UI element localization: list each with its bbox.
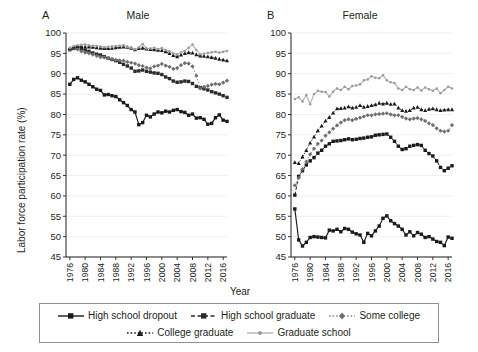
y-tick-label: 50: [50, 231, 61, 242]
data-point: [210, 83, 214, 87]
chart-canvas: 4550556065707580859095100197619801984198…: [0, 0, 478, 352]
data-point: [309, 103, 312, 106]
x-tick-label: 1980: [305, 263, 315, 282]
data-point: [347, 88, 350, 91]
data-point: [107, 46, 110, 49]
legend-swatch-college-graduate: [127, 328, 153, 338]
data-point: [446, 129, 450, 133]
data-point: [435, 107, 439, 111]
data-point: [397, 145, 400, 148]
data-point: [359, 83, 362, 86]
data-point: [369, 113, 373, 117]
data-point: [129, 66, 132, 69]
data-point: [221, 94, 224, 97]
series-line: [70, 78, 227, 125]
x-tick-label: 1976: [65, 263, 75, 282]
data-point: [351, 138, 354, 141]
data-point: [191, 82, 194, 85]
data-point: [416, 105, 420, 109]
legend-label-high-school-dropout: High school dropout: [88, 311, 177, 321]
data-point: [335, 228, 338, 231]
data-point: [354, 105, 358, 109]
y-tick-label: 60: [50, 190, 61, 201]
data-point: [374, 134, 377, 137]
data-point: [148, 66, 152, 70]
data-point: [370, 135, 373, 138]
data-point: [160, 73, 163, 76]
data-point: [396, 113, 400, 117]
data-point: [350, 118, 354, 122]
data-point: [126, 64, 129, 67]
data-point: [308, 159, 311, 162]
data-point: [206, 54, 210, 58]
data-point: [203, 53, 206, 56]
data-point: [370, 75, 373, 78]
data-point: [405, 86, 408, 89]
data-point: [439, 92, 442, 95]
data-point: [396, 106, 400, 110]
data-point: [210, 90, 213, 93]
data-point: [400, 148, 403, 151]
data-point: [400, 228, 403, 231]
x-tick-label: 1992: [351, 263, 361, 282]
legend-item-graduate-school[interactable]: Graduate school: [247, 328, 350, 338]
data-point: [408, 230, 411, 233]
data-point: [88, 44, 91, 47]
data-point: [218, 51, 221, 54]
legend-label-some-college: Some college: [359, 311, 420, 321]
data-point: [87, 83, 90, 86]
data-point: [95, 88, 98, 91]
data-point: [385, 132, 388, 135]
data-point: [84, 43, 87, 46]
data-point: [404, 116, 408, 120]
data-point: [316, 235, 319, 238]
data-point: [171, 67, 175, 71]
y-tick-label: 45: [275, 251, 286, 262]
data-point: [347, 137, 350, 140]
legend-item-college-graduate[interactable]: College graduate: [127, 328, 233, 338]
data-point: [130, 46, 133, 49]
data-point: [347, 105, 351, 109]
data-point: [324, 145, 327, 148]
data-point: [354, 232, 357, 235]
data-point: [412, 116, 416, 120]
data-point: [423, 108, 427, 112]
data-point: [206, 84, 210, 88]
legend-item-high-school-dropout[interactable]: High school dropout: [58, 311, 177, 321]
x-tick-label: 2008: [413, 263, 423, 282]
data-point: [218, 113, 221, 116]
data-point: [141, 43, 144, 46]
legend-item-high-school-graduate[interactable]: High school graduate: [191, 311, 316, 321]
data-point: [126, 104, 129, 107]
data-point: [133, 70, 136, 73]
data-point: [152, 71, 155, 74]
data-point: [328, 95, 331, 98]
y-tick-label: 95: [50, 48, 61, 59]
data-point: [145, 47, 148, 50]
data-point: [190, 64, 194, 68]
data-point: [351, 230, 354, 233]
y-tick-label: 95: [275, 48, 286, 59]
data-point: [332, 90, 335, 93]
data-point: [313, 93, 316, 96]
data-point: [381, 217, 384, 220]
data-point: [355, 84, 358, 87]
data-point: [221, 118, 224, 121]
data-point: [446, 167, 449, 170]
legend-item-some-college[interactable]: Some college: [329, 311, 420, 321]
data-point: [137, 123, 140, 126]
data-point: [343, 86, 346, 89]
data-point: [442, 129, 446, 133]
series-line: [295, 209, 452, 246]
data-point: [149, 70, 152, 73]
data-point: [427, 235, 430, 238]
data-point: [366, 104, 370, 108]
data-point: [408, 117, 412, 121]
y-tick-label: 60: [275, 190, 286, 201]
legend-label-high-school-graduate: High school graduate: [221, 311, 316, 321]
data-point: [167, 65, 171, 69]
data-point: [443, 244, 446, 247]
data-point: [381, 112, 385, 116]
data-point: [210, 122, 213, 125]
data-point: [363, 79, 366, 82]
